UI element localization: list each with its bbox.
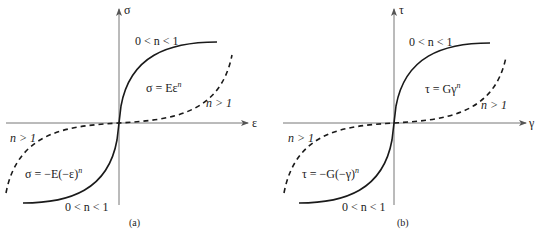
caption-b: (b) bbox=[397, 217, 409, 229]
y-axis-label-b: τ bbox=[399, 3, 404, 17]
lower-range-label-b: 0 < n < 1 bbox=[342, 200, 386, 214]
panel-b: τ γ 0 < n < 1 τ = Gγn n > 1 n > 1 τ = −G… bbox=[283, 3, 535, 229]
upper-equation-b: τ = Gγn bbox=[425, 81, 461, 96]
caption-a: (a) bbox=[129, 217, 140, 229]
upper-dashed-label-b: n > 1 bbox=[481, 98, 507, 112]
y-axis-label-a: σ bbox=[124, 3, 131, 17]
upper-equation-a: σ = Eεn bbox=[146, 80, 182, 95]
lower-dashed-label-b: n > 1 bbox=[288, 131, 314, 145]
lower-range-label-a: 0 < n < 1 bbox=[65, 200, 109, 214]
upper-range-label-b: 0 < n < 1 bbox=[409, 35, 453, 49]
panel-a: σ ε 0 < n < 1 σ = Eεn n > 1 n > 1 σ = −E… bbox=[6, 3, 257, 229]
upper-dashed-label-a: n > 1 bbox=[206, 96, 232, 110]
lower-equation-b: τ = −G(−γ)n bbox=[302, 166, 359, 181]
lower-dashed-label-a: n > 1 bbox=[10, 131, 36, 145]
lower-equation-a: σ = −E(−ε)n bbox=[25, 166, 82, 181]
x-axis-label-a: ε bbox=[252, 116, 257, 130]
upper-range-label-a: 0 < n < 1 bbox=[135, 34, 179, 48]
x-axis-label-b: γ bbox=[528, 116, 535, 130]
figure-canvas: σ ε 0 < n < 1 σ = Eεn n > 1 n > 1 σ = −E… bbox=[0, 0, 539, 231]
